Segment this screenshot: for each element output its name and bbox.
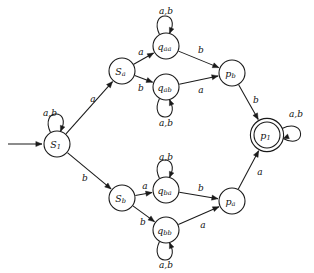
arrow-head-icon [212, 207, 219, 212]
state-label-subscript: 1 [57, 143, 61, 151]
edge-pa-to-p1 [238, 151, 258, 189]
arrow-head-icon [211, 195, 218, 200]
self-loop-label-qab: a,b [159, 118, 173, 128]
arrow-head-icon [212, 63, 219, 68]
edge-line [66, 82, 113, 134]
self-loop-qba [157, 160, 174, 179]
arrow-head-icon [169, 27, 174, 33]
self-loop-label-S1: a,b [43, 108, 57, 118]
arrow-head-icon [147, 53, 154, 58]
edge-S1-to-Sa [66, 82, 113, 134]
self-loop-label-qbb: a,b [159, 260, 173, 270]
arrow-head-icon [253, 151, 258, 158]
arrow-head-icon [36, 141, 42, 146]
state-label-subscript: aa [164, 45, 172, 53]
edge-label-Sa-qab: b [138, 83, 144, 93]
self-loop-label-qaa: a,b [159, 6, 173, 16]
edge-label-Sb-qbb: b [140, 217, 146, 227]
edge-Sb-to-qba [135, 191, 152, 196]
edge-Sa-to-qaa [134, 53, 154, 64]
state-label-subscript: bb [163, 229, 171, 237]
self-loop-qaa [157, 16, 174, 35]
state-label-subscript: ab [163, 86, 171, 94]
edge-label-S1-Sa: a [90, 94, 95, 104]
arrow-head-icon [148, 216, 155, 222]
arrow-head-icon [212, 75, 219, 80]
edge-label-pb-p1: b [253, 95, 259, 105]
self-loop-label-p1: a,b [289, 109, 303, 119]
edge-label-qab-pb: a [198, 85, 203, 95]
start-arrow-layer [8, 141, 42, 146]
state-label-subscript: a [122, 70, 126, 78]
edge-label-qaa-pb: b [198, 45, 204, 55]
edge-label-qbb-pa: a [200, 220, 205, 230]
automaton-diagram-canvas: ababbababbaaa,ba,ba,ba,ba,ba,bS1Saqaaqab… [0, 0, 314, 273]
self-loop-qab [157, 99, 174, 118]
edge-qbb-to-pa [178, 207, 219, 225]
arrow-head-icon [169, 243, 174, 249]
arrow-head-icon [145, 191, 152, 196]
edge-S1-to-Sb [67, 153, 111, 189]
edge-label-Sa-qaa: a [138, 47, 143, 57]
start-arrow [8, 141, 42, 146]
arrow-head-icon [60, 125, 65, 131]
edge-line [178, 207, 219, 225]
state-label-subscript: 1 [266, 134, 270, 142]
self-loop-path [282, 126, 301, 141]
edge-label-S1-Sb: b [82, 173, 88, 183]
edge-label-pa-p1: a [257, 167, 262, 177]
arrow-head-icon [169, 171, 174, 177]
edge-qab-to-pb [179, 75, 218, 85]
arrow-head-icon [146, 78, 153, 83]
self-loop-qbb [157, 242, 174, 261]
state-label-subscript: a [232, 200, 236, 208]
state-label-subscript: b [231, 72, 235, 80]
edge-line [238, 151, 258, 189]
self-loop-label-qba: a,b [159, 152, 173, 162]
arrow-head-icon [253, 113, 258, 120]
edge-label-Sb-qba: a [142, 181, 147, 191]
automaton-svg: ababbababbaaa,ba,ba,ba,ba,ba,bS1Saqaaqab… [0, 0, 314, 273]
edge-Sa-to-qab [135, 76, 153, 83]
state-label-subscript: ba [163, 189, 171, 197]
self-loop-p1 [282, 126, 301, 141]
edge-qba-to-pa [179, 192, 218, 200]
edge-line [67, 153, 111, 189]
state-label-subscript: b [122, 197, 126, 205]
nodes-layer [44, 33, 284, 243]
edge-label-qba-pa: b [198, 183, 204, 193]
arrow-head-icon [169, 100, 174, 106]
